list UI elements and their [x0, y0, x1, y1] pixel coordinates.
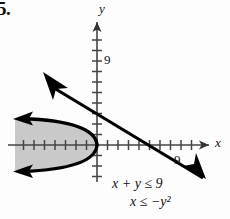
inequality-graph-figure: 5.: [0, 0, 230, 219]
y-intercept-label: 9: [104, 52, 111, 68]
x-intercept-label: 9: [174, 152, 181, 168]
inequality-linear: x + y ≤ 9: [112, 176, 163, 192]
x-axis-label: x: [215, 135, 221, 151]
y-axis: [93, 22, 102, 182]
y-axis-label: y: [99, 1, 105, 17]
inequality-quadratic: x ≤ −y²: [130, 194, 171, 210]
